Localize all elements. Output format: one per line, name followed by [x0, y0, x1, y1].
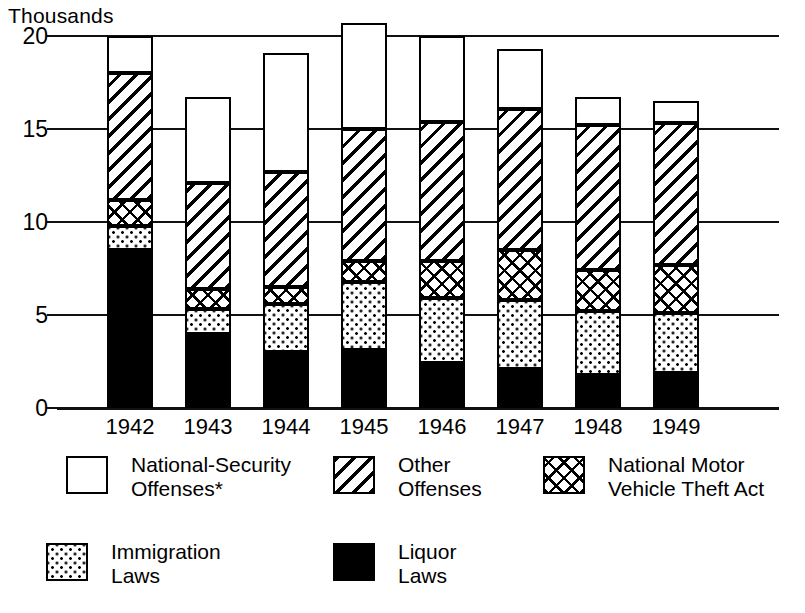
legend-label-national-security-offenses: National-Security Offenses*	[131, 453, 291, 502]
bar-segment	[107, 36, 153, 73]
bar-1942[interactable]	[107, 36, 153, 408]
x-tick-label-1942: 1942	[85, 414, 175, 440]
bar-segment	[419, 363, 465, 408]
bar-segment	[653, 123, 699, 264]
x-tick-label-1943: 1943	[163, 414, 253, 440]
bar-1947[interactable]	[497, 36, 543, 408]
chart-legend: National-Security Offenses*Other Offense…	[0, 452, 805, 613]
bar-segment	[497, 300, 543, 369]
legend-swatch-other-offenses	[333, 456, 375, 494]
x-tick-label-1947: 1947	[475, 414, 565, 440]
stacked-bar-chart: Thousands 05101520 National-Security Off…	[0, 0, 805, 613]
bar-1946[interactable]	[419, 36, 465, 408]
legend-item-national-security-offenses[interactable]: National-Security Offenses*	[66, 456, 291, 502]
bar-segment	[185, 289, 231, 309]
bar-segment	[497, 369, 543, 408]
y-tick-mark-10	[47, 221, 57, 223]
bar-segment	[653, 313, 699, 373]
bar-1944[interactable]	[263, 36, 309, 408]
bar-segment	[575, 125, 621, 270]
x-tick-label-1944: 1944	[241, 414, 331, 440]
bar-segment	[107, 250, 153, 408]
y-tick-label-0: 0	[35, 397, 48, 420]
bar-1945[interactable]	[341, 36, 387, 408]
bar-segment	[653, 265, 699, 313]
bar-segment	[263, 287, 309, 304]
legend-swatch-national-security-offenses	[66, 456, 108, 494]
bar-segment	[341, 23, 387, 129]
legend-item-liquor-laws[interactable]: Liquor Laws	[333, 543, 456, 589]
bar-segment	[419, 122, 465, 262]
bar-segment	[653, 373, 699, 408]
bar-segment	[497, 49, 543, 109]
bar-segment	[107, 73, 153, 199]
y-tick-mark-20	[47, 35, 57, 37]
bar-segment	[575, 97, 621, 125]
legend-label-liquor-laws: Liquor Laws	[398, 540, 456, 589]
legend-label-national-motor-vehicle-theft-act: National Motor Vehicle Theft Act	[608, 453, 764, 502]
x-tick-label-1948: 1948	[553, 414, 643, 440]
x-tick-label-1949: 1949	[631, 414, 721, 440]
bar-segment	[419, 298, 465, 363]
x-tick-label-1946: 1946	[397, 414, 487, 440]
y-tick-label-20: 20	[22, 25, 48, 48]
bar-segment	[497, 109, 543, 250]
bar-segment	[341, 129, 387, 261]
legend-item-other-offenses[interactable]: Other Offenses	[333, 456, 482, 502]
bar-segment	[263, 53, 309, 172]
plot-area: 05101520	[57, 36, 779, 408]
legend-swatch-immigration-laws	[46, 543, 88, 581]
bar-segment	[341, 350, 387, 408]
y-tick-mark-15	[47, 128, 57, 130]
bar-segment	[341, 261, 387, 281]
bar-segment	[341, 282, 387, 351]
bar-segment	[419, 36, 465, 122]
bar-1949[interactable]	[653, 36, 699, 408]
bar-segment	[185, 309, 231, 333]
y-tick-label-5: 5	[35, 304, 48, 327]
legend-swatch-liquor-laws	[333, 543, 375, 581]
y-tick-label-10: 10	[22, 211, 48, 234]
bar-segment	[107, 200, 153, 226]
y-tick-mark-0	[47, 407, 57, 409]
x-tick-label-1945: 1945	[319, 414, 409, 440]
y-tick-label-15: 15	[22, 118, 48, 141]
legend-item-national-motor-vehicle-theft-act[interactable]: National Motor Vehicle Theft Act	[543, 456, 764, 502]
bar-segment	[653, 101, 699, 123]
bar-segment	[575, 270, 621, 311]
bar-1943[interactable]	[185, 36, 231, 408]
bar-segment	[419, 261, 465, 298]
bar-segment	[575, 375, 621, 408]
bar-segment	[185, 97, 231, 183]
y-tick-mark-5	[47, 314, 57, 316]
bar-segment	[185, 334, 231, 408]
legend-label-immigration-laws: Immigration Laws	[111, 540, 221, 589]
bar-segment	[185, 183, 231, 289]
bar-segment	[497, 250, 543, 300]
bar-segment	[107, 226, 153, 250]
legend-swatch-national-motor-vehicle-theft-act	[543, 456, 585, 494]
bar-segment	[263, 172, 309, 287]
bar-segment	[263, 304, 309, 352]
legend-label-other-offenses: Other Offenses	[398, 453, 482, 502]
legend-item-immigration-laws[interactable]: Immigration Laws	[46, 543, 221, 589]
bar-1948[interactable]	[575, 36, 621, 408]
bar-segment	[263, 352, 309, 408]
bar-segment	[575, 311, 621, 374]
